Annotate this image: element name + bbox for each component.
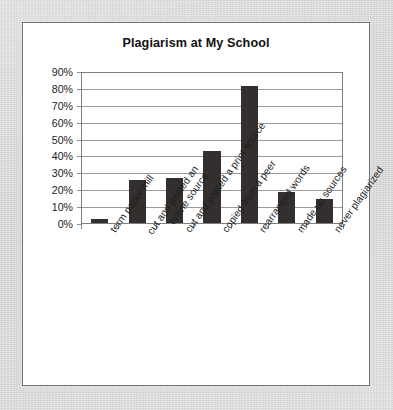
y-tick-label: 80% xyxy=(52,83,73,95)
y-tick-label: 40% xyxy=(52,150,73,162)
y-tick-label: 90% xyxy=(52,66,73,78)
y-tick-label: 10% xyxy=(52,201,73,213)
y-tick-label: 70% xyxy=(52,100,73,112)
chart-title: Plagiarism at My School xyxy=(23,36,369,50)
y-tick-label: 50% xyxy=(52,134,73,146)
bar[interactable] xyxy=(91,219,108,224)
y-tick-label: 60% xyxy=(52,117,73,129)
x-axis-labels: term paper millcut and pasted anonline s… xyxy=(81,226,381,376)
y-tick-label: 20% xyxy=(52,184,73,196)
chart-card: Plagiarism at My School 0%10%20%30%40%50… xyxy=(22,22,370,386)
y-axis: 0%10%20%30%40%50%60%70%80%90% xyxy=(39,72,77,224)
y-tick-label: 0% xyxy=(58,218,73,230)
y-tick-label: 30% xyxy=(52,167,73,179)
